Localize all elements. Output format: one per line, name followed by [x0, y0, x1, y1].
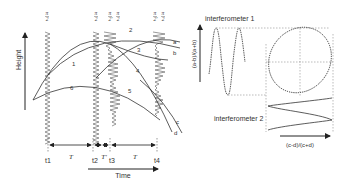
svg-text:2': 2' — [154, 16, 159, 22]
time-axis-label: Time — [115, 172, 130, 179]
svg-text:2: 2 — [95, 16, 98, 22]
trajectories — [33, 40, 182, 133]
port-labels: a b c d — [173, 39, 179, 136]
interferometer-1-label: interferometer 1 — [205, 15, 255, 22]
pulse-labels: π2 π2 π2' π2 π2' π2 — [45, 10, 165, 22]
svg-text:t3: t3 — [109, 157, 115, 164]
svg-text:T: T — [69, 153, 74, 161]
trajectory-4-c — [110, 44, 172, 132]
svg-text:b: b — [173, 50, 177, 56]
interferometer-1-fringe — [209, 28, 245, 95]
right-panel: interferometer 1 (a-b)/(a+b) interferome… — [191, 15, 344, 148]
svg-text:3: 3 — [137, 47, 141, 53]
trajectory-d — [140, 80, 182, 133]
svg-text:2: 2 — [46, 16, 49, 22]
svg-text:T': T' — [101, 153, 107, 161]
svg-text:1: 1 — [72, 61, 76, 67]
left-panel: Height π2 π2 π2' π2 π2' π2 1 — [15, 10, 182, 179]
svg-text:a: a — [173, 39, 177, 45]
atom-interferometer-diagram: Height π2 π2 π2' π2 π2' π2 1 — [0, 0, 347, 183]
svg-text:T: T — [133, 153, 138, 161]
svg-text:2: 2 — [117, 16, 120, 22]
interval-labels: T T' T — [69, 153, 138, 161]
interferometer-2-label: interferometer 2 — [214, 115, 264, 122]
y-axis-label: (a-b)/(a+b) — [191, 40, 197, 69]
svg-text:d: d — [174, 130, 177, 136]
svg-text:c: c — [176, 119, 179, 125]
height-axis-label: Height — [15, 50, 23, 70]
interferometer-2-fringe — [268, 98, 332, 130]
svg-text:6: 6 — [70, 85, 74, 91]
svg-text:2: 2 — [129, 27, 133, 33]
svg-text:t1: t1 — [45, 157, 51, 164]
svg-text:t4: t4 — [154, 157, 160, 164]
svg-text:5: 5 — [128, 88, 132, 94]
svg-text:2: 2 — [162, 16, 165, 22]
svg-text:2': 2' — [109, 16, 114, 22]
x-axis-label: (c-d)/(c+d) — [286, 142, 314, 148]
svg-text:t2: t2 — [92, 157, 98, 164]
